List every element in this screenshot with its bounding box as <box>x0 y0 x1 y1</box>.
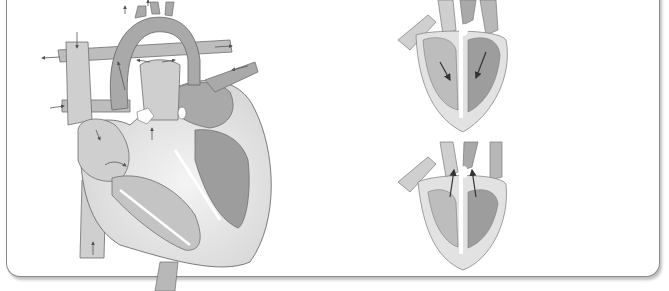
aorta-branch-1 <box>135 6 146 18</box>
superior-vena-cava <box>66 42 92 125</box>
descending-aorta <box>155 262 178 291</box>
aortic-valve <box>178 107 186 119</box>
aorta-branch-2 <box>150 2 160 14</box>
ventricles-filling-diagram <box>398 0 507 132</box>
main-heart <box>42 0 271 291</box>
ventricles-contracting-diagram <box>398 142 507 270</box>
aorta-branch-3 <box>165 2 174 16</box>
heart-diagram <box>0 0 669 291</box>
